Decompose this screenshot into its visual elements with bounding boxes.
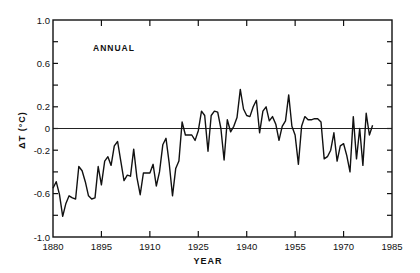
x-axis-title: YEAR: [193, 256, 222, 266]
y-tick-label: 0.6: [37, 58, 50, 69]
x-tick-label: 1970: [333, 241, 354, 252]
y-axis-tick-labels: 1.00.60.20-0.2-0.6-1.0: [34, 15, 50, 243]
y-tick-label: -0.2: [34, 145, 50, 156]
temperature-anomaly-chart: 1.00.60.20-0.2-0.6-1.0 18801895191019251…: [0, 0, 420, 273]
y-tick-label: 0.2: [37, 101, 50, 112]
y-tick-label: 0: [45, 123, 50, 134]
x-tick-label: 1955: [285, 241, 306, 252]
x-tick-label: 1940: [236, 241, 257, 252]
x-tick-label: 1925: [188, 241, 209, 252]
x-tick-label: 1895: [91, 241, 112, 252]
y-axis-title: ΔT (°C): [17, 111, 27, 149]
x-tick-label: 1985: [381, 241, 402, 252]
x-axis-tick-labels: 18801895191019251940195519701985: [42, 241, 402, 252]
x-tick-label: 1910: [139, 241, 160, 252]
panel-label: ANNUAL: [93, 43, 135, 53]
y-tick-label: -0.6: [34, 188, 50, 199]
y-tick-label: 1.0: [37, 15, 50, 26]
annual-anomaly-line: [53, 89, 373, 216]
x-tick-label: 1880: [42, 241, 63, 252]
